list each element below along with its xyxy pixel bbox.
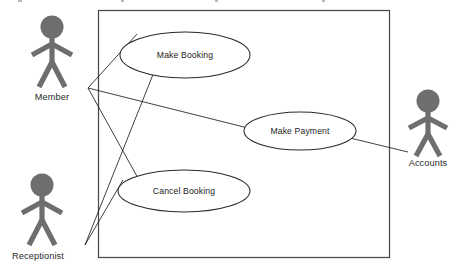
use-case-diagram-canvas: Make Booking Make Payment Cancel Booking… (0, 0, 464, 270)
actor-leg-left (29, 220, 42, 245)
use-case-label: Make Payment (270, 126, 330, 136)
actor-head-icon (417, 90, 440, 113)
actor-head-icon (31, 174, 54, 197)
actor-arm-right (428, 118, 447, 128)
actor-leg-left (39, 62, 52, 87)
actor-arm-left (32, 44, 52, 55)
actor-leg-right (52, 62, 65, 87)
actor-arm-left (22, 202, 42, 213)
association-receptionist-cancel-booking (85, 180, 123, 245)
actor-receptionist[interactable]: Receptionist (12, 174, 64, 262)
actor-arm-right (42, 202, 62, 213)
actor-label: Receptionist (12, 251, 64, 261)
actor-arm-right (52, 44, 72, 55)
clipped-text-artifacts (18, 0, 325, 2)
actor-arm-left (409, 118, 428, 128)
association-make-payment-accounts (350, 138, 408, 152)
use-case-make-payment[interactable]: Make Payment (244, 112, 356, 150)
use-case-label: Cancel Booking (153, 186, 215, 196)
association-member-make-payment (88, 88, 248, 128)
actor-label: Accounts (409, 158, 448, 168)
actor-leg-right (428, 134, 440, 156)
actor-accounts[interactable]: Accounts (409, 90, 448, 169)
association-receptionist-make-booking (85, 72, 154, 245)
use-case-make-booking[interactable]: Make Booking (120, 32, 250, 78)
use-case-cancel-booking[interactable]: Cancel Booking (118, 170, 250, 212)
diagram-svg: Make Booking Make Payment Cancel Booking… (0, 0, 464, 270)
actor-label: Member (35, 92, 69, 102)
actor-member[interactable]: Member (32, 16, 72, 103)
actor-leg-left (416, 134, 428, 156)
actor-head-icon (41, 16, 64, 39)
actor-leg-right (42, 220, 55, 245)
use-case-label: Make Booking (157, 50, 213, 60)
